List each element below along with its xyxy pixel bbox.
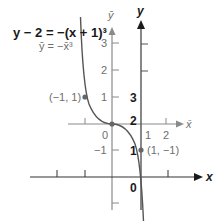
xbar-axis-label: x̄ [186,119,192,130]
translated-equation: ȳ = −x̄³ [39,41,73,52]
ybar-axis [109,27,120,210]
y-tick-1: 1 [130,145,137,157]
main-equation: y − 2 = −(x + 1)³ [13,26,107,39]
y-tick-0: 0 [130,182,137,194]
ybar-tick-1: 1 [101,92,107,103]
y-axis [137,20,148,210]
xbar-tick-1: 1 [145,130,151,141]
point-1-neg1 [138,147,143,152]
x-axis-label: x [206,171,213,183]
ybar-tick-2: 2 [101,65,107,76]
xbar-tick-2: 2 [163,130,169,141]
point-label-neg1-1: (−1, 1) [49,92,81,103]
x-axis [30,170,203,181]
ybar-tick-neg1: −1 [94,145,107,156]
point-label-1-neg1: (1, −1) [147,145,179,156]
point-origin-bar [109,121,114,126]
y-tick-3: 3 [130,92,137,104]
ybar-tick-0: 0 [102,130,108,141]
y-axis-label: y [137,5,144,17]
ybar-axis-label: ȳ [108,10,114,21]
point-neg1-1 [82,94,87,99]
ybar-tick-3: 3 [101,38,107,49]
xbar-axis [68,118,184,128]
y-tick-2: 2 [130,115,137,127]
